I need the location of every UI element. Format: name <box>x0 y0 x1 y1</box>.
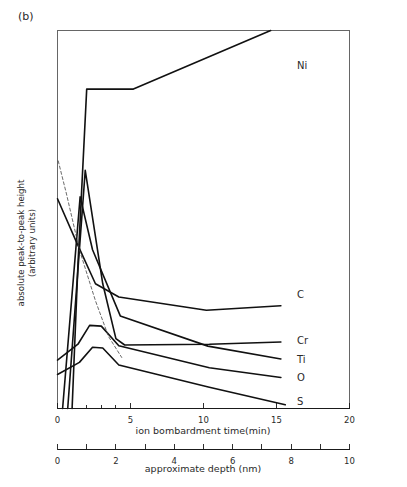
axis-tick-label: 10 <box>344 456 355 466</box>
series-line-c <box>58 199 281 311</box>
series-label-s: S <box>297 396 303 407</box>
series-label-cr: Cr <box>297 335 309 346</box>
plot-frame <box>58 31 350 409</box>
x-axis-title-time: ion bombardment time(min) <box>136 425 271 436</box>
series-label-c: C <box>297 289 304 300</box>
axis-tick-label: 20 <box>344 415 355 425</box>
panel-tag: (b) <box>18 10 34 23</box>
series-label-o: O <box>297 372 305 383</box>
x-axis-time: 05101520 ion bombardment time(min) <box>55 403 355 437</box>
series-label-ni: Ni <box>297 60 307 71</box>
series-label-ti: Ti <box>296 354 306 365</box>
axis-tick-label: 2 <box>113 456 118 466</box>
axis-tick-label: 5 <box>128 415 133 425</box>
y-axis-title-line1: absolute peak-to-peak height <box>16 179 26 306</box>
axis-tick-label: 0 <box>55 415 60 425</box>
axis-tick-label: 0 <box>55 456 60 466</box>
series-line-ti <box>63 197 281 409</box>
y-axis-title: absolute peak-to-peak height (arbitrary … <box>16 179 37 306</box>
y-axis-title-line2: (arbitrary units) <box>27 209 37 277</box>
series-labels: NiCCrTiOS <box>296 60 309 407</box>
auger-depth-profile-figure: (b) NiCCrTiOS 05101520 ion bombardment t… <box>0 0 407 487</box>
axis-tick-label: 15 <box>271 415 282 425</box>
x-axis-depth: 0246810 approximate depth (nm) <box>55 444 355 475</box>
x-axis-title-depth: approximate depth (nm) <box>145 463 261 474</box>
series-group <box>58 31 286 409</box>
series-line-unlabeled-dashed <box>58 161 122 358</box>
axis-tick-label: 8 <box>288 456 293 466</box>
axis-tick-label: 10 <box>198 415 209 425</box>
series-line-s <box>58 347 286 404</box>
